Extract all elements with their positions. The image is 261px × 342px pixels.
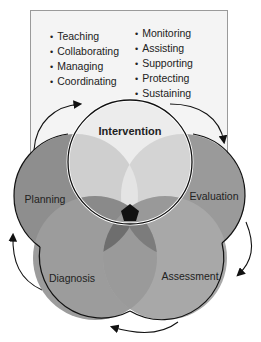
intervention-label: Intervention <box>99 125 162 137</box>
nursing-process-diagram: Intervention Evaluation Assessment Diagn… <box>0 0 261 342</box>
evaluation-label: Evaluation <box>189 190 238 202</box>
cycle-arrow <box>112 322 178 332</box>
cycle-arrow <box>238 222 252 275</box>
planning-label: Planning <box>25 193 66 205</box>
assessment-label: Assessment <box>161 270 218 282</box>
diagnosis-label: Diagnosis <box>49 272 95 284</box>
